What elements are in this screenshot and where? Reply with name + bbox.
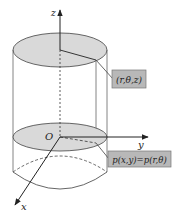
- x-axis-label: x: [21, 201, 27, 212]
- point-leader-line: [96, 60, 113, 79]
- z-axis-label: z: [50, 8, 56, 18]
- projection-callout-label: p(x,y)=p(r,θ): [112, 155, 167, 165]
- y-axis-label: y: [137, 139, 144, 150]
- cylindrical-coordinates-diagram: (r,θ,z) p(x,y)=p(r,θ) z y x O: [0, 0, 179, 217]
- point-callout-label: (r,θ,z): [116, 75, 143, 85]
- cylinder-bottom-hidden-arc: [13, 156, 107, 172]
- origin-label: O: [45, 131, 53, 142]
